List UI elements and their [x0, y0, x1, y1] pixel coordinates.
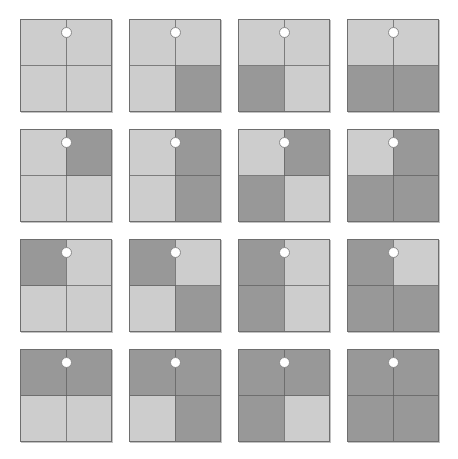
quadrant-top-left: [21, 240, 66, 286]
horizontal-divider-line: [130, 65, 220, 66]
quadrant-bottom-left: [130, 396, 175, 442]
horizontal-divider-line: [21, 175, 111, 176]
fixation-dot-icon: [279, 357, 290, 368]
fixation-dot-icon: [388, 137, 399, 148]
horizontal-divider-line: [130, 395, 220, 396]
stimulus-card[interactable]: [20, 349, 112, 442]
fixation-dot-icon: [279, 137, 290, 148]
quadrant-bottom-right: [393, 396, 438, 442]
quadrant-bottom-right: [175, 286, 220, 332]
fixation-dot-icon: [170, 137, 181, 148]
stimulus-card[interactable]: [129, 19, 221, 112]
horizontal-divider-line: [348, 285, 438, 286]
quadrant-top-left: [21, 350, 66, 396]
quadrant-bottom-right: [66, 396, 111, 442]
quadrant-bottom-left: [348, 66, 393, 112]
quadrant-top-right: [175, 240, 220, 286]
stimulus-card[interactable]: [129, 349, 221, 442]
quadrant-top-left: [348, 240, 393, 286]
quadrant-top-right: [393, 130, 438, 176]
fixation-dot-icon: [279, 27, 290, 38]
quadrant-top-right: [175, 350, 220, 396]
stimulus-card[interactable]: [347, 239, 439, 332]
stimulus-card[interactable]: [347, 19, 439, 112]
stimulus-card[interactable]: [347, 349, 439, 442]
quadrant-top-right: [66, 240, 111, 286]
quadrant-top-left: [130, 130, 175, 176]
quadrant-bottom-right: [66, 176, 111, 222]
quadrant-bottom-right: [284, 396, 329, 442]
quadrant-bottom-right: [284, 66, 329, 112]
horizontal-divider-line: [21, 65, 111, 66]
quadrant-bottom-right: [393, 286, 438, 332]
quadrant-bottom-left: [21, 286, 66, 332]
fixation-dot-icon: [388, 247, 399, 258]
quadrant-bottom-left: [130, 66, 175, 112]
quadrant-top-left: [130, 350, 175, 396]
horizontal-divider-line: [130, 175, 220, 176]
horizontal-divider-line: [348, 65, 438, 66]
quadrant-top-left: [21, 20, 66, 66]
quadrant-bottom-right: [66, 66, 111, 112]
fixation-dot-icon: [61, 247, 72, 258]
quadrant-bottom-left: [21, 66, 66, 112]
horizontal-divider-line: [348, 175, 438, 176]
stimulus-card[interactable]: [238, 349, 330, 442]
fixation-dot-icon: [388, 357, 399, 368]
quadrant-bottom-left: [239, 176, 284, 222]
horizontal-divider-line: [21, 285, 111, 286]
stimulus-card[interactable]: [129, 239, 221, 332]
quadrant-top-left: [348, 130, 393, 176]
fixation-dot-icon: [170, 27, 181, 38]
stimulus-card[interactable]: [20, 239, 112, 332]
quadrant-top-left: [21, 130, 66, 176]
quadrant-top-right: [175, 20, 220, 66]
fixation-dot-icon: [170, 357, 181, 368]
horizontal-divider-line: [239, 175, 329, 176]
quadrant-bottom-right: [393, 176, 438, 222]
stimulus-card[interactable]: [238, 19, 330, 112]
stimulus-card[interactable]: [129, 129, 221, 222]
horizontal-divider-line: [348, 395, 438, 396]
quadrant-bottom-left: [239, 286, 284, 332]
quadrant-top-right: [284, 350, 329, 396]
quadrant-bottom-right: [66, 286, 111, 332]
quadrant-top-right: [393, 240, 438, 286]
quadrant-bottom-left: [239, 66, 284, 112]
stimulus-grid: [20, 19, 438, 442]
quadrant-bottom-right: [393, 66, 438, 112]
horizontal-divider-line: [21, 395, 111, 396]
quadrant-top-left: [348, 20, 393, 66]
horizontal-divider-line: [239, 395, 329, 396]
quadrant-top-right: [284, 130, 329, 176]
quadrant-bottom-left: [239, 396, 284, 442]
quadrant-top-left: [239, 240, 284, 286]
quadrant-bottom-left: [21, 176, 66, 222]
stimulus-card[interactable]: [238, 129, 330, 222]
stimulus-card[interactable]: [20, 129, 112, 222]
horizontal-divider-line: [239, 65, 329, 66]
horizontal-divider-line: [130, 285, 220, 286]
quadrant-top-right: [66, 350, 111, 396]
fixation-dot-icon: [170, 247, 181, 258]
quadrant-top-right: [66, 20, 111, 66]
quadrant-top-right: [393, 350, 438, 396]
quadrant-top-left: [130, 20, 175, 66]
quadrant-bottom-left: [21, 396, 66, 442]
fixation-dot-icon: [61, 137, 72, 148]
quadrant-bottom-right: [175, 176, 220, 222]
stimulus-card[interactable]: [238, 239, 330, 332]
stimulus-card[interactable]: [347, 129, 439, 222]
stimulus-card[interactable]: [20, 19, 112, 112]
fixation-dot-icon: [388, 27, 399, 38]
quadrant-bottom-left: [348, 286, 393, 332]
quadrant-bottom-left: [348, 396, 393, 442]
quadrant-top-left: [130, 240, 175, 286]
quadrant-top-left: [239, 130, 284, 176]
quadrant-bottom-left: [130, 176, 175, 222]
quadrant-bottom-left: [130, 286, 175, 332]
fixation-dot-icon: [61, 27, 72, 38]
quadrant-top-left: [348, 350, 393, 396]
fixation-dot-icon: [61, 357, 72, 368]
quadrant-top-right: [393, 20, 438, 66]
